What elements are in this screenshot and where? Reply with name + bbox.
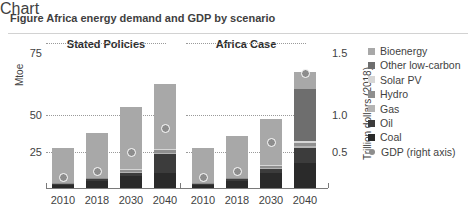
legend-item-bioenergy[interactable]: Bioenergy bbox=[368, 44, 474, 58]
bar-stated-policies-2018[interactable] bbox=[86, 133, 108, 188]
legend-label: Other low-carbon bbox=[380, 60, 461, 71]
legend-circle-icon bbox=[369, 149, 375, 155]
bar-segment-hydro bbox=[120, 170, 142, 172]
legend-square-icon bbox=[368, 48, 375, 55]
bar-segment-coal bbox=[294, 163, 316, 188]
bar-segment-oil bbox=[86, 179, 108, 181]
gridline-75-right bbox=[186, 43, 306, 44]
bar-segment-oil bbox=[260, 169, 282, 174]
legend-label: Gas bbox=[380, 104, 399, 115]
bar-segment-hydro bbox=[154, 150, 176, 153]
bar-segment-hydro bbox=[294, 143, 316, 147]
legend-square-icon bbox=[368, 120, 375, 127]
top-divider bbox=[8, 33, 468, 34]
bar-africa-case-2010[interactable] bbox=[192, 148, 214, 188]
bar-segment-gas bbox=[120, 172, 142, 173]
y-tick-right-1-0: 1.0 bbox=[332, 109, 358, 121]
bar-segment-coal bbox=[260, 173, 282, 188]
legend-square-icon bbox=[368, 134, 375, 141]
bar-segment-coal bbox=[120, 176, 142, 188]
x-axis-line bbox=[46, 188, 328, 189]
bar-segment-oil bbox=[154, 154, 176, 172]
bar-segment-bioenergy bbox=[154, 84, 176, 150]
legend-label: Oil bbox=[380, 118, 393, 129]
gridline-75-left bbox=[46, 43, 166, 44]
bar-segment-bioenergy bbox=[120, 107, 142, 169]
bar-segment-solar-pv bbox=[294, 141, 316, 143]
x-tick-africa-case-2040: 2040 bbox=[288, 194, 322, 206]
bar-africa-case-2040[interactable] bbox=[294, 72, 316, 188]
axis-tick-middle bbox=[180, 183, 181, 188]
gdp-marker-stated-policies-2010 bbox=[59, 173, 68, 182]
bar-segment-oil bbox=[226, 179, 248, 181]
legend-square-icon bbox=[368, 62, 375, 69]
gdp-marker-stated-policies-2040 bbox=[161, 124, 170, 133]
gdp-marker-stated-policies-2018 bbox=[93, 167, 102, 176]
bar-segment-oil bbox=[192, 184, 214, 185]
y-tick-left-50: 50 bbox=[16, 109, 42, 121]
bar-segment-oil bbox=[120, 173, 142, 177]
legend-square-icon bbox=[368, 105, 375, 112]
legend-item-solar-pv[interactable]: Solar PV bbox=[368, 73, 474, 87]
legend-item-gdp-right-axis[interactable]: GDP (right axis) bbox=[368, 145, 474, 159]
bar-segment-solar-pv bbox=[120, 169, 142, 170]
bar-segment-hydro bbox=[86, 178, 108, 179]
figure-title: Figure Africa energy demand and GDP by s… bbox=[10, 12, 340, 24]
legend-label: Bioenergy bbox=[380, 46, 427, 57]
bar-stated-policies-2010[interactable] bbox=[52, 148, 74, 188]
bar-africa-case-2018[interactable] bbox=[226, 136, 248, 188]
bar-segment-oil bbox=[294, 148, 316, 163]
legend-square-icon bbox=[368, 91, 375, 98]
gdp-marker-africa-case-2010 bbox=[199, 173, 208, 182]
y-tick-left-25: 25 bbox=[16, 146, 42, 158]
gdp-marker-africa-case-2018 bbox=[233, 167, 242, 176]
plot-area bbox=[46, 43, 328, 188]
chart-legend: BioenergyOther low-carbonSolar PVHydroGa… bbox=[368, 44, 474, 159]
gridline-50-left bbox=[46, 115, 166, 116]
x-tick-africa-case-2010: 2010 bbox=[186, 194, 220, 206]
y-axis-title-left: Mtoe bbox=[14, 64, 25, 86]
legend-item-coal[interactable]: Coal bbox=[368, 130, 474, 144]
legend-item-other-low-carbon[interactable]: Other low-carbon bbox=[368, 58, 474, 72]
bar-stated-policies-2040[interactable] bbox=[154, 84, 176, 188]
legend-label: Coal bbox=[380, 132, 402, 143]
bar-segment-gas bbox=[154, 153, 176, 154]
legend-label: Solar PV bbox=[380, 75, 421, 86]
bar-segment-coal bbox=[154, 173, 176, 188]
bar-segment-coal bbox=[86, 181, 108, 188]
bar-segment-oil bbox=[52, 184, 74, 185]
x-tick-stated-policies-2040: 2040 bbox=[148, 194, 182, 206]
bar-segment-solar-pv bbox=[154, 149, 176, 150]
bar-segment-coal bbox=[226, 181, 248, 188]
y-tick-right-1-5: 1.5 bbox=[332, 47, 358, 59]
legend-item-hydro[interactable]: Hydro bbox=[368, 87, 474, 101]
y-tick-left-75: 75 bbox=[16, 47, 42, 59]
bar-segment-hydro bbox=[52, 183, 74, 184]
bar-segment-hydro bbox=[260, 166, 282, 168]
x-tick-africa-case-2018: 2018 bbox=[220, 194, 254, 206]
x-tick-stated-policies-2018: 2018 bbox=[80, 194, 114, 206]
bar-segment-solar-pv bbox=[260, 165, 282, 166]
legend-item-gas[interactable]: Gas bbox=[368, 102, 474, 116]
legend-label: Hydro bbox=[380, 89, 408, 100]
axis-tick-end bbox=[328, 183, 329, 188]
bar-segment-hydro bbox=[192, 183, 214, 184]
axis-tick-start bbox=[46, 183, 47, 188]
legend-square-icon bbox=[368, 76, 375, 83]
x-tick-stated-policies-2010: 2010 bbox=[46, 194, 80, 206]
bar-segment-gas bbox=[294, 146, 316, 148]
legend-item-oil[interactable]: Oil bbox=[368, 116, 474, 130]
bar-segment-hydro bbox=[226, 178, 248, 179]
gdp-marker-stated-policies-2030 bbox=[127, 148, 136, 157]
x-tick-stated-policies-2030: 2030 bbox=[114, 194, 148, 206]
bar-africa-case-2030[interactable] bbox=[260, 119, 282, 188]
legend-label: GDP (right axis) bbox=[381, 147, 456, 158]
bar-segment-other-low-carbon bbox=[294, 89, 316, 140]
chart-figure: Figure Africa energy demand and GDP by s… bbox=[0, 18, 476, 219]
gdp-marker-africa-case-2030 bbox=[267, 138, 276, 147]
y-tick-right-0-5: 0.5 bbox=[332, 146, 358, 158]
x-tick-africa-case-2030: 2030 bbox=[254, 194, 288, 206]
gridline-50-right bbox=[186, 115, 306, 116]
bar-segment-gas bbox=[260, 168, 282, 169]
gdp-marker-africa-case-2040 bbox=[301, 69, 310, 78]
